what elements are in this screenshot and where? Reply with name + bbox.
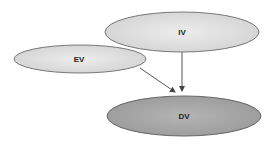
node-iv: IV bbox=[105, 12, 259, 52]
variable-diagram: IV EV DV bbox=[0, 0, 279, 149]
edge-ev-to-dv bbox=[140, 68, 175, 92]
node-dv: DV bbox=[107, 96, 261, 136]
node-iv-label: IV bbox=[178, 28, 186, 37]
node-dv-label: DV bbox=[178, 112, 190, 121]
node-ev-label: EV bbox=[74, 55, 85, 64]
node-ev: EV bbox=[14, 45, 146, 73]
